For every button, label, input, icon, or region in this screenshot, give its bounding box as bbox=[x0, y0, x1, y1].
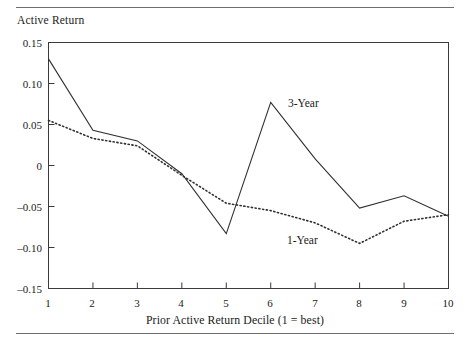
plot-area bbox=[0, 0, 470, 344]
x-tick-marks bbox=[49, 283, 449, 289]
x-axis-title: Prior Active Return Decile (1 = best) bbox=[0, 313, 470, 328]
series-annotation-3-year: 3-Year bbox=[288, 97, 319, 109]
figure-container: Active Return 0.15 0.10 0.05 0 –0.05 –0.… bbox=[0, 0, 470, 344]
series-annotation-1-year: 1-Year bbox=[287, 234, 318, 246]
axis-frame bbox=[49, 43, 449, 289]
series-line-1-year bbox=[49, 120, 449, 243]
y-tick-marks bbox=[49, 43, 55, 289]
